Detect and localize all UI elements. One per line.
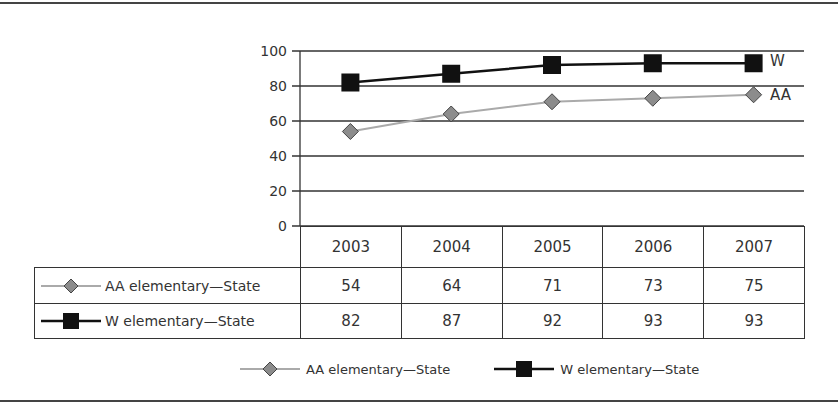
table-cell: 71 <box>502 267 604 304</box>
diamond-marker-icon <box>41 277 101 295</box>
legend-item-w: W elementary—State <box>494 360 699 378</box>
diamond-marker-icon <box>342 124 358 140</box>
table-cell: 64 <box>401 267 503 304</box>
table-row-label: W elementary—State <box>34 303 301 339</box>
table-row-label: AA elementary—State <box>34 267 301 304</box>
diamond-marker-icon <box>443 106 459 122</box>
legend-label-aa: AA elementary—State <box>306 362 450 377</box>
y-tick-label: 40 <box>269 148 287 164</box>
table-row-label-text: AA elementary—State <box>105 278 260 294</box>
square-marker-icon <box>644 54 662 72</box>
table-cell: 92 <box>502 303 604 339</box>
table-cell: 93 <box>703 303 805 339</box>
square-marker-icon <box>442 65 460 83</box>
legend-label-w: W elementary—State <box>560 362 699 377</box>
table-cell: 54 <box>300 267 402 304</box>
series-end-label-w: W <box>770 52 785 70</box>
square-marker-icon <box>341 74 359 92</box>
chart-legend: AA elementary—State W elementary—State <box>240 360 743 378</box>
series-lines <box>341 54 762 139</box>
legend-item-aa: AA elementary—State <box>240 361 450 377</box>
square-marker-icon <box>543 56 561 74</box>
table-header-cell: 2007 <box>703 226 805 268</box>
y-axis-ticks: 020406080100 <box>260 43 287 234</box>
y-tick-label: 0 <box>278 218 287 234</box>
table-header-cell: 2005 <box>502 226 604 268</box>
table-cell: 73 <box>602 267 704 304</box>
y-tick-label: 20 <box>269 183 287 199</box>
y-tick-label: 80 <box>269 78 287 94</box>
diamond-marker-icon <box>240 361 300 377</box>
square-marker-icon <box>494 360 554 378</box>
gridlines <box>292 51 804 226</box>
table-header-cell: 2006 <box>602 226 704 268</box>
line-chart-plot: 020406080100 <box>0 0 838 410</box>
table-header-cell: 2003 <box>300 226 402 268</box>
table-row-label-text: W elementary—State <box>105 313 255 329</box>
diamond-marker-icon <box>544 94 560 110</box>
table-cell: 82 <box>300 303 402 339</box>
diamond-marker-icon <box>645 90 661 106</box>
table-cell: 75 <box>703 267 805 304</box>
diamond-marker-icon <box>746 87 762 103</box>
square-marker-icon <box>745 54 763 72</box>
series-end-label-aa: AA <box>770 86 791 104</box>
y-tick-label: 60 <box>269 113 287 129</box>
table-header-cell: 2004 <box>401 226 503 268</box>
square-marker-icon <box>41 312 101 330</box>
table-cell: 87 <box>401 303 503 339</box>
table-cell: 93 <box>602 303 704 339</box>
y-tick-label: 100 <box>260 43 287 59</box>
